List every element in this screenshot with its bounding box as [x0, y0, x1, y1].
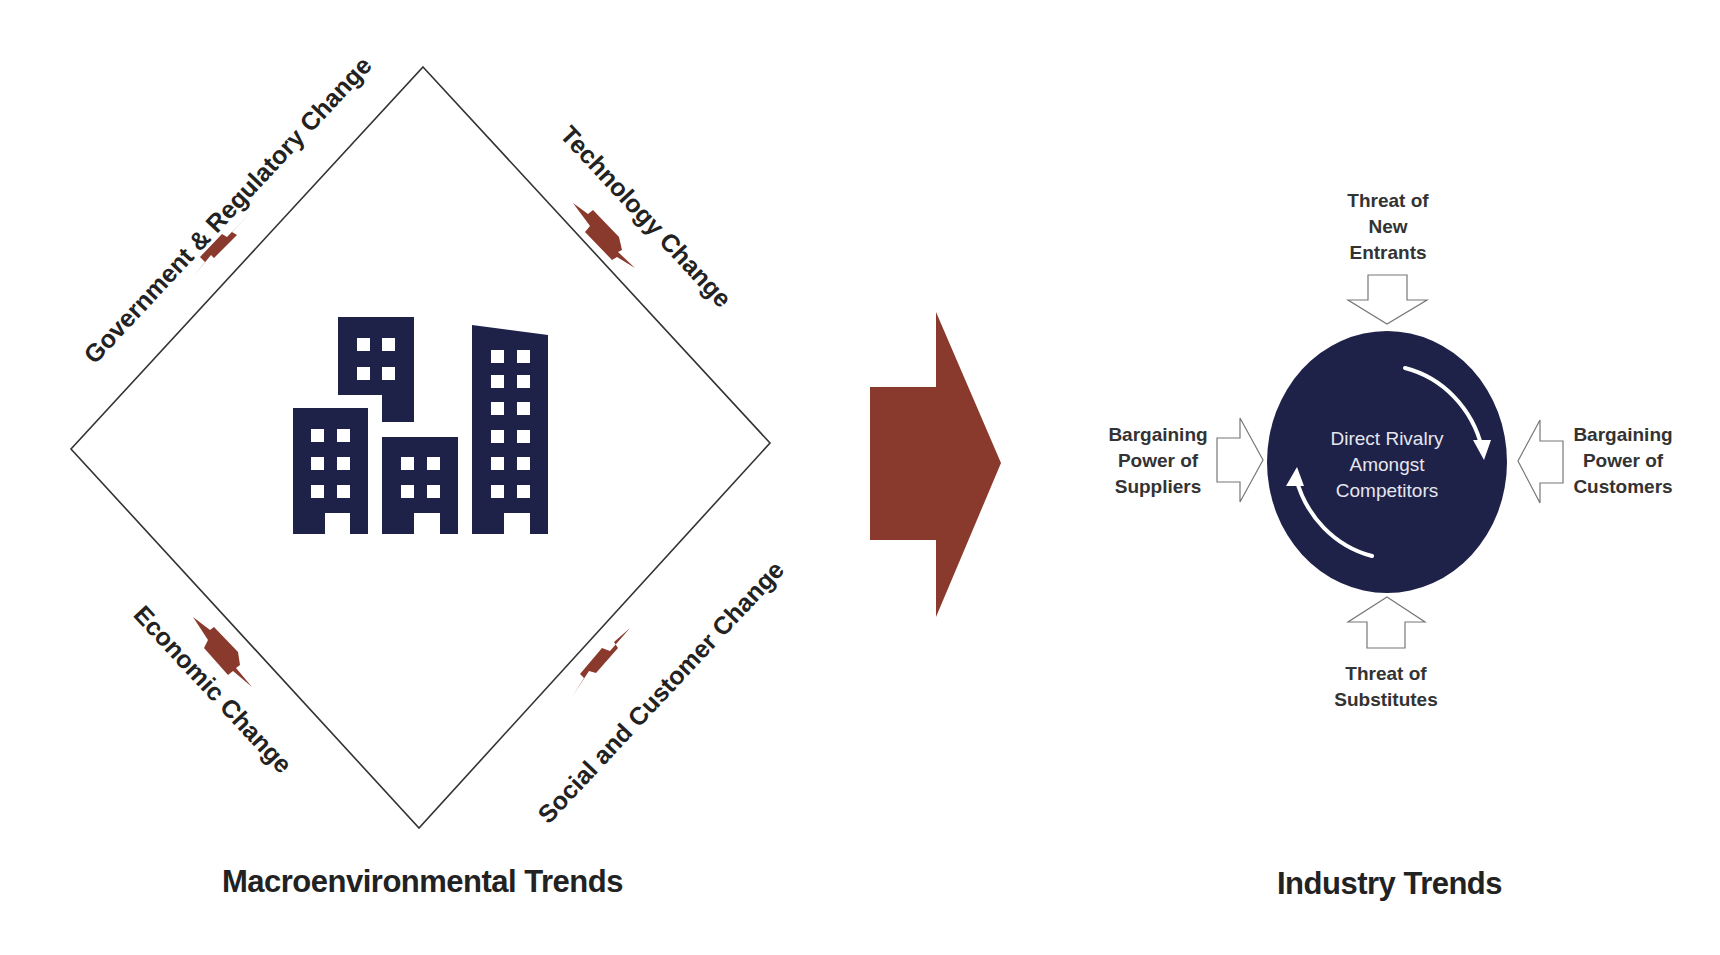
new-entrants-line3: Entrants	[1318, 240, 1458, 266]
new-entrants-arrow-icon	[1348, 275, 1427, 324]
industry-trends-title: Industry Trends	[1277, 866, 1502, 902]
social-change-arrow-icon	[572, 628, 630, 697]
direct-rivalry-line1: Direct Rivalry	[1307, 426, 1467, 452]
large-right-arrow-icon	[870, 312, 1001, 617]
macro-trends-title: Macroenvironmental Trends	[222, 864, 623, 900]
new-entrants-line1: Threat of	[1318, 188, 1458, 214]
customers-line1: Bargaining	[1558, 422, 1688, 448]
suppliers-line3: Suppliers	[1093, 474, 1223, 500]
suppliers-arrow-icon	[1217, 418, 1263, 502]
suppliers-line2: Power of	[1093, 448, 1223, 474]
direct-rivalry-line3: Competitors	[1307, 478, 1467, 504]
suppliers-line1: Bargaining	[1093, 422, 1223, 448]
substitutes-line1: Threat of	[1316, 661, 1456, 687]
new-entrants-line2: New	[1318, 214, 1458, 240]
bargaining-suppliers-label: Bargaining Power of Suppliers	[1093, 422, 1223, 500]
direct-rivalry-label: Direct Rivalry Amongst Competitors	[1307, 426, 1467, 504]
customers-line2: Power of	[1558, 448, 1688, 474]
customers-arrow-icon	[1518, 420, 1563, 503]
customers-line3: Customers	[1558, 474, 1688, 500]
city-buildings-icon	[293, 317, 548, 534]
direct-rivalry-line2: Amongst	[1307, 452, 1467, 478]
threat-new-entrants-label: Threat of New Entrants	[1318, 188, 1458, 266]
bargaining-customers-label: Bargaining Power of Customers	[1558, 422, 1688, 500]
threat-substitutes-label: Threat of Substitutes	[1316, 661, 1456, 713]
substitutes-line2: Substitutes	[1316, 687, 1456, 713]
substitutes-arrow-icon	[1348, 597, 1425, 648]
